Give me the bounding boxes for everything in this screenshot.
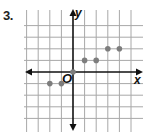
data-point — [105, 46, 111, 52]
data-point — [82, 58, 88, 64]
grid-lines — [24, 10, 143, 132]
data-point — [59, 81, 65, 87]
data-point — [70, 69, 76, 75]
y-axis-label: y — [74, 6, 83, 20]
axes — [25, 9, 143, 131]
data-point — [93, 58, 99, 64]
y-axis-down-arrow-icon — [70, 124, 77, 131]
x-axis-label: x — [133, 73, 142, 87]
data-point — [47, 81, 53, 87]
coordinate-plane: y x O — [0, 0, 148, 134]
data-point — [117, 46, 123, 52]
x-axis-left-arrow-icon — [25, 69, 32, 76]
